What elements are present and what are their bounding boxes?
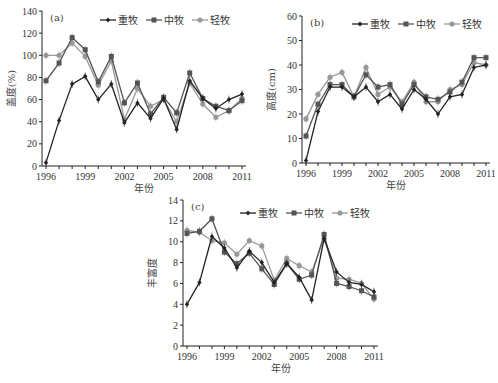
- svg-text:中牧: 中牧: [416, 18, 436, 30]
- legend-item: 中牧: [146, 14, 184, 26]
- y-tick-label: 80: [27, 72, 37, 83]
- y-tick-label: 10: [168, 236, 178, 247]
- y-tick-label: 0: [173, 341, 178, 352]
- x-axis-label: 年份: [271, 362, 291, 374]
- x-tick-label: 2005: [404, 168, 424, 179]
- y-tick-label: 0: [292, 158, 297, 169]
- y-tick-label: 140: [22, 6, 37, 17]
- svg-text:中牧: 中牧: [164, 14, 184, 26]
- svg-text:重牧: 重牧: [118, 14, 138, 26]
- chart-panel-c: 02468101214199619992002200520082011年份丰富度…: [146, 195, 384, 375]
- y-axis-label: 高度(cm): [265, 68, 277, 111]
- y-tick-label: 20: [27, 138, 37, 149]
- legend-item: 重牧: [352, 18, 390, 30]
- x-tick-label: 1999: [75, 171, 95, 182]
- y-tick-label: 100: [22, 50, 37, 61]
- y-tick-label: 50: [287, 35, 297, 46]
- y-tick-label: 120: [22, 28, 37, 39]
- y-tick-label: 14: [168, 195, 178, 206]
- chart-panel-b: 0102030405060199619992002200520082011年份高…: [265, 11, 496, 192]
- panel-label: (a): [50, 12, 64, 23]
- y-tick-label: 12: [168, 215, 178, 226]
- series-line-1: [46, 38, 242, 114]
- legend-item: 中牧: [398, 18, 436, 30]
- y-tick-label: 6: [173, 278, 178, 289]
- y-tick-label: 8: [173, 257, 178, 268]
- x-tick-label: 1999: [214, 351, 234, 362]
- y-axis-label: 丰富度: [146, 258, 158, 288]
- series-line-2: [187, 230, 374, 299]
- y-tick-label: 60: [287, 11, 297, 22]
- figure: 0204060801001201401996199920022005200820…: [0, 0, 498, 383]
- y-axis-label: 盖度(%): [5, 70, 17, 107]
- svg-text:重牧: 重牧: [258, 207, 278, 219]
- svg-text:中牧: 中牧: [304, 207, 324, 219]
- y-tick-label: 40: [287, 60, 297, 71]
- x-tick-label: 1996: [296, 168, 316, 179]
- x-tick-label: 2008: [440, 168, 460, 179]
- series-line-1: [306, 58, 486, 136]
- y-tick-label: 30: [287, 84, 297, 95]
- legend-item: 轻牧: [192, 14, 230, 26]
- y-tick-label: 0: [32, 161, 37, 172]
- chart-panel-a: 0204060801001201401996199920022005200820…: [5, 6, 252, 195]
- svg-text:轻牧: 轻牧: [350, 207, 370, 219]
- legend-item: 重牧: [100, 14, 138, 26]
- x-tick-label: 1999: [332, 168, 352, 179]
- legend-item: 轻牧: [444, 18, 482, 30]
- y-tick-label: 10: [287, 133, 297, 144]
- x-tick-label: 2005: [289, 351, 309, 362]
- y-tick-label: 60: [27, 94, 37, 105]
- y-tick-label: 40: [27, 116, 37, 127]
- x-tick-label: 2002: [252, 351, 272, 362]
- x-tick-label: 2011: [364, 351, 384, 362]
- y-tick-label: 20: [287, 109, 297, 120]
- x-tick-label: 2011: [232, 171, 252, 182]
- legend-item: 轻牧: [332, 207, 370, 219]
- series-line-0: [46, 76, 242, 162]
- y-tick-label: 2: [173, 320, 178, 331]
- panel-label: (c): [191, 201, 205, 212]
- series-line-0: [306, 65, 486, 161]
- svg-text:重牧: 重牧: [370, 18, 390, 30]
- x-tick-label: 2002: [368, 168, 388, 179]
- x-tick-label: 2008: [327, 351, 347, 362]
- legend-item: 重牧: [240, 207, 278, 219]
- x-axis-label: 年份: [386, 179, 406, 191]
- series-line-2: [306, 63, 486, 119]
- panel-label: (b): [310, 17, 324, 28]
- svg-text:轻牧: 轻牧: [462, 18, 482, 30]
- x-tick-label: 2005: [154, 171, 174, 182]
- series-line-1: [187, 219, 374, 297]
- legend-item: 中牧: [286, 207, 324, 219]
- svg-text:轻牧: 轻牧: [210, 14, 230, 26]
- x-tick-label: 2011: [476, 168, 496, 179]
- x-tick-label: 1996: [177, 351, 197, 362]
- y-tick-label: 4: [173, 299, 178, 310]
- x-axis-label: 年份: [134, 182, 154, 194]
- x-tick-label: 2008: [193, 171, 213, 182]
- x-tick-label: 2002: [114, 171, 134, 182]
- x-tick-label: 1996: [36, 171, 56, 182]
